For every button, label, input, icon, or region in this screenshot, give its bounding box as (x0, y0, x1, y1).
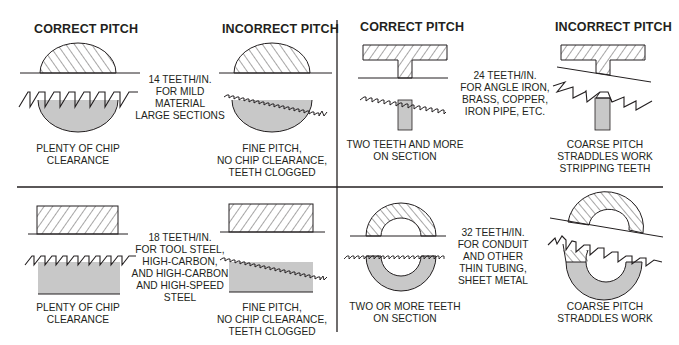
bl-incorrect-caption: FINE PITCH, NO CHIP CLEARANCE, TEETH CLO… (212, 302, 332, 338)
spec-line: HIGH-CARBON, (130, 256, 230, 268)
spec-line: AND OTHER (448, 251, 538, 263)
tl-correct-title: CORRECT PITCH (34, 22, 138, 36)
tr-incorrect-figure (553, 45, 652, 130)
caption-line: FINE PITCH, (212, 143, 332, 155)
bl-incorrect-figure (220, 204, 327, 292)
caption-line: CLEARANCE (28, 314, 128, 326)
spec-line: 32 TEETH/IN. (448, 227, 538, 239)
tr-incorrect-title: INCORRECT PITCH (555, 20, 672, 34)
spec-line: AND HIGH-CARBON (130, 268, 230, 280)
spec-line: FOR ANGLE IRON, (455, 82, 555, 94)
tl-incorrect-title: INCORRECT PITCH (222, 22, 339, 36)
spec-line: LARGE SECTIONS (135, 110, 225, 122)
caption-line: CLEARANCE (28, 155, 128, 167)
tr-incorrect-caption: COARSE PITCH STRADDLES WORK STRIPPING TE… (555, 139, 655, 175)
spec-line: 24 TEETH/IN. (455, 70, 555, 82)
bl-correct-caption: PLENTY OF CHIP CLEARANCE (28, 302, 128, 326)
caption-line: STRADDLES WORK (555, 151, 655, 163)
caption-line: STRADDLES WORK (555, 313, 655, 325)
caption-line: PLENTY OF CHIP (28, 143, 128, 155)
tl-incorrect-caption: FINE PITCH, NO CHIP CLEARANCE, TEETH CLO… (212, 143, 332, 179)
br-correct-caption: TWO OR MORE TEETH ON SECTION (345, 301, 465, 325)
tr-correct-figure (358, 45, 448, 130)
tl-incorrect-figure (219, 43, 332, 132)
bl-spec: 18 TEETH/IN. FOR TOOL STEEL, HIGH-CARBON… (130, 232, 230, 304)
spec-line: FOR TOOL STEEL, (130, 244, 230, 256)
bl-correct-figure (25, 206, 136, 294)
br-spec: 32 TEETH/IN. FOR CONDUIT AND OTHER THIN … (448, 227, 538, 287)
spec-line: BRASS, COPPER, (455, 94, 555, 106)
caption-line: TEETH CLOGGED (212, 167, 332, 179)
spec-line: FOR CONDUIT (448, 239, 538, 251)
spec-line: SHEET METAL (448, 275, 538, 287)
caption-line: TWO TEETH AND MORE (345, 139, 465, 151)
spec-line: 14 TEETH/IN. (135, 74, 225, 86)
spec-line: AND HIGH-SPEED (130, 280, 230, 292)
caption-line: TEETH CLOGGED (212, 326, 332, 338)
caption-line: ON SECTION (345, 313, 465, 325)
tr-correct-caption: TWO TEETH AND MORE ON SECTION (345, 139, 465, 163)
tr-correct-title: CORRECT PITCH (360, 20, 464, 34)
br-incorrect-caption: COARSE PITCH STRADDLES WORK (555, 301, 655, 325)
tl-correct-figure (19, 43, 140, 132)
caption-line: COARSE PITCH (555, 301, 655, 313)
caption-line: COARSE PITCH (555, 139, 655, 151)
spec-line: MATERIAL (135, 98, 225, 110)
caption-line: STRIPPING TEETH (555, 163, 655, 175)
caption-line: PLENTY OF CHIP (28, 302, 128, 314)
caption-line: NO CHIP CLEARANCE, (212, 155, 332, 167)
caption-line: ON SECTION (345, 151, 465, 163)
br-incorrect-figure (548, 192, 663, 300)
caption-line: TWO OR MORE TEETH (345, 301, 465, 313)
tl-correct-caption: PLENTY OF CHIP CLEARANCE (28, 143, 128, 167)
spec-line: THIN TUBING, (448, 263, 538, 275)
spec-line: 18 TEETH/IN. (130, 232, 230, 244)
caption-line: NO CHIP CLEARANCE, (212, 314, 332, 326)
br-correct-figure (344, 203, 446, 291)
tr-spec: 24 TEETH/IN. FOR ANGLE IRON, BRASS, COPP… (455, 70, 555, 118)
spec-line: FOR MILD (135, 86, 225, 98)
spec-line: IRON PIPE, ETC. (455, 106, 555, 118)
caption-line: FINE PITCH, (212, 302, 332, 314)
tl-spec: 14 TEETH/IN. FOR MILD MATERIAL LARGE SEC… (135, 74, 225, 122)
